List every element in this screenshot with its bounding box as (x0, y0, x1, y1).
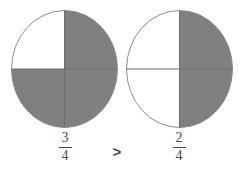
right-quadrant-top-right (180, 11, 233, 70)
left-pie-graphic (11, 10, 118, 128)
right-fraction-denominator: 4 (159, 149, 199, 164)
fraction-label-row: 3 4 > 2 4 (0, 131, 242, 174)
left-fraction-label: 3 4 (45, 131, 85, 163)
right-fraction-numerator: 2 (159, 131, 199, 146)
right-pie-graphic (126, 10, 233, 128)
left-quadrant-bottom-right (65, 69, 118, 128)
left-fraction-numerator: 3 (45, 131, 85, 146)
left-quadrant-top-right (65, 11, 118, 70)
left-fraction-denominator: 4 (45, 149, 85, 164)
right-quadrant-top-left (127, 11, 180, 70)
fraction-comparison-figure: 3 4 > 2 4 (0, 0, 242, 174)
left-fraction-circle (11, 10, 118, 128)
right-fraction-circle (126, 10, 233, 128)
right-quadrant-bottom-left (127, 69, 180, 128)
left-quadrant-top-left (12, 11, 65, 70)
comparison-symbol: > (102, 143, 132, 160)
right-quadrant-bottom-right (180, 69, 233, 128)
left-quadrant-bottom-left (12, 69, 65, 128)
right-fraction-label: 2 4 (159, 131, 199, 163)
